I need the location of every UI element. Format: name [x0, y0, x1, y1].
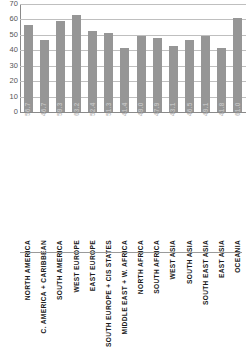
y-axis-tick: 70 [0, 0, 18, 8]
y-axis-tick: 20 [0, 77, 18, 85]
bar [153, 38, 162, 112]
category-axis-label: C. AMERICA + CARIBBEAN [41, 240, 48, 333]
bar-value-label: 49.1 [202, 102, 208, 116]
category-label-group: 46.5SOUTH ASIA [184, 116, 195, 248]
bar [201, 36, 210, 112]
category-label-group: 56.7NORTH AMERICA [23, 116, 34, 248]
bar-value-label: 46.5 [186, 102, 192, 116]
bar-value-label: 51.3 [106, 102, 112, 116]
category-axis-label: SOUTH AFRICA [154, 240, 161, 294]
y-axis-tick: 10 [0, 93, 18, 101]
bar [104, 33, 113, 112]
bar-value-label: 59.3 [57, 102, 63, 116]
category-axis-label: NORTH AMERICA [25, 240, 32, 300]
bar-value-label: 63.2 [73, 102, 79, 116]
y-axis-tick: 0 [0, 108, 18, 116]
bar-value-label: 56.7 [25, 102, 31, 116]
category-axis-label: SOUTH EAST ASIA [202, 240, 209, 305]
category-label-group: 41.4MIDDLE EAST + W. AFRICA [119, 116, 130, 248]
axis-baseline [20, 112, 246, 113]
bar-value-label: 47.9 [154, 102, 160, 116]
bar [137, 36, 146, 112]
category-axis-label: NORTH AFRICA [138, 240, 145, 294]
bar-value-label: 52.4 [89, 102, 95, 116]
plot-area: 706050403020100 [0, 4, 248, 116]
bar [88, 31, 97, 112]
bar-value-label: 41.4 [122, 102, 128, 116]
bar [72, 15, 81, 113]
bar [233, 18, 242, 112]
bar-value-label: 41.8 [219, 102, 225, 116]
category-label-group: 46.7C. AMERICA + CARIBBEAN [39, 116, 50, 248]
category-axis-label: OCEANIA [235, 240, 242, 273]
category-axis-label: WEST EUROPE [73, 240, 80, 293]
category-label-group: 59.3SOUTH AMERICA [55, 116, 66, 248]
category-axis-label: EAST EUROPE [89, 240, 96, 291]
category-axis-label: WEST ASIA [170, 240, 177, 280]
y-axis-tick: 30 [0, 62, 18, 70]
category-label-group: 49.0NORTH AFRICA [136, 116, 147, 248]
category-axis-label: MIDDLE EAST + W. AFRICA [122, 240, 129, 334]
category-label-group: 47.9SOUTH AFRICA [152, 116, 163, 248]
bar-value-label: 46.7 [41, 102, 47, 116]
category-label-group: 61.0OCEANIA [232, 116, 243, 248]
y-axis: 706050403020100 [0, 4, 18, 112]
bar [56, 21, 65, 112]
bar-value-label: 61.0 [235, 102, 241, 116]
category-label-group: 52.4EAST EUROPE [87, 116, 98, 248]
category-label-group: 63.2WEST EUROPE [71, 116, 82, 248]
bars-container [20, 4, 248, 112]
y-axis-tick: 50 [0, 31, 18, 39]
bar-value-label: 49.0 [138, 102, 144, 116]
y-axis-tick: 60 [0, 16, 18, 24]
category-label-group: 49.1SOUTH EAST ASIA [200, 116, 211, 248]
bottom-divider [20, 252, 242, 253]
bar-value-label: 43.1 [170, 102, 176, 116]
category-axis-label: SOUTH EUROPE + CIS STATES [105, 240, 112, 347]
y-axis-tick: 40 [0, 47, 18, 55]
category-axis-label: SOUTH ASIA [186, 240, 193, 284]
category-labels: 56.7NORTH AMERICA46.7C. AMERICA + CARIBB… [20, 116, 246, 248]
category-axis-label: SOUTH AMERICA [57, 240, 64, 300]
category-axis-label: EAST ASIA [218, 240, 225, 278]
category-label-group: 51.3SOUTH EUROPE + CIS STATES [103, 116, 114, 248]
category-label-group: 41.8EAST ASIA [216, 116, 227, 248]
category-label-group: 43.1WEST ASIA [168, 116, 179, 248]
bar [24, 25, 33, 112]
